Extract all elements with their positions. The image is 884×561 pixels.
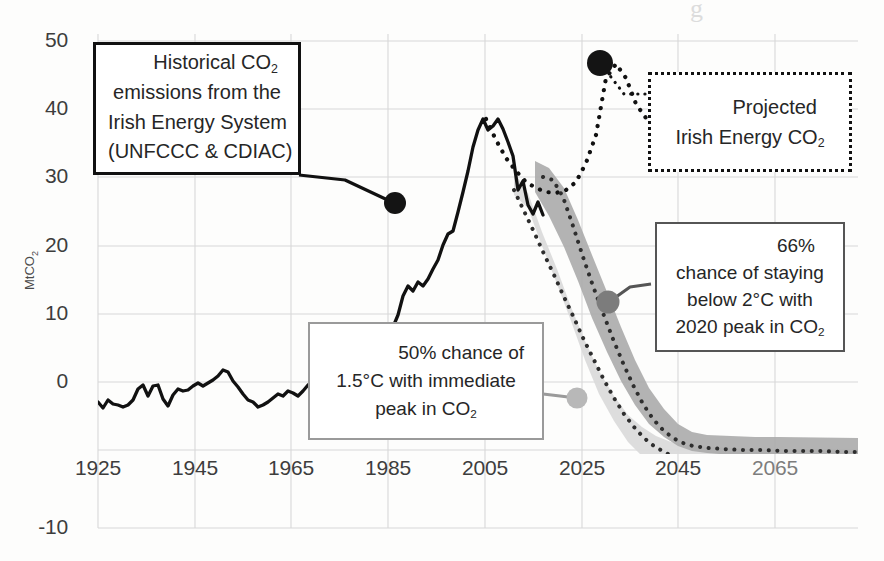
y-tick-10: 10 [14, 301, 68, 325]
annotation-66-line3: below 2°C with [669, 287, 831, 314]
annotation-historical-line4: (UNFCCC & CDIAC) [108, 137, 286, 167]
leader-line-historical [299, 175, 394, 203]
projected-marker [587, 50, 613, 76]
x-tick-2005: 2005 [440, 456, 530, 480]
y-tick-40: 40 [14, 96, 68, 120]
band-66-marker [597, 291, 620, 314]
y-axis-title-sub: 2 [30, 251, 40, 256]
x-tick-2065: 2065 [730, 456, 820, 480]
x-tick-2025: 2025 [537, 456, 627, 480]
annotation-historical-line1: Historical CO2 [108, 48, 286, 78]
x-tick-1965: 1965 [246, 456, 336, 480]
y-tick-50: 50 [14, 28, 68, 52]
annotation-chance-50: 50% chance of 1.5°C with immediate peak … [308, 322, 544, 440]
y-axis-title: MtCO2 [22, 251, 40, 290]
y-tick-30: 30 [14, 164, 68, 188]
x-tick-1945: 1945 [150, 456, 240, 480]
annotation-projected: Projected Irish Energy CO2 [648, 72, 852, 172]
historical-marker [384, 192, 406, 214]
annotation-50-line3: peak in CO2 [322, 395, 530, 423]
annotation-66-line2: chance of staying [669, 260, 831, 287]
y-tick-0: 0 [14, 369, 68, 393]
annotation-66-line4: 2020 peak in CO2 [669, 314, 831, 341]
x-tick-1985: 1985 [343, 456, 433, 480]
annotation-66-line1: 66% [669, 233, 831, 260]
x-tick-2045: 2045 [633, 456, 723, 480]
x-tick-1925: 1925 [53, 456, 143, 480]
annotation-historical: Historical CO2 emissions from the Irish … [93, 42, 301, 175]
y-axis-title-main: MtCO [22, 256, 37, 290]
annotation-projected-line2: Irish Energy CO2 [665, 122, 835, 152]
y-tick-minus10: -10 [14, 515, 68, 539]
chart-figure: g [0, 0, 884, 561]
annotation-chance-66: 66% chance of staying below 2°C with 202… [655, 222, 845, 352]
annotation-50-line1: 50% chance of [322, 339, 530, 367]
band-50-marker [567, 388, 588, 409]
annotation-historical-line3: Irish Energy System [108, 108, 286, 138]
annotation-50-line2: 1.5°C with immediate [322, 367, 530, 395]
annotation-historical-line2: emissions from the [108, 78, 286, 108]
annotation-projected-line1: Projected [665, 92, 835, 122]
